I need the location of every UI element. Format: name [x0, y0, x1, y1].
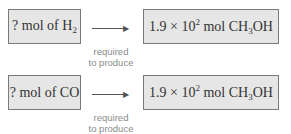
conversion-row-co: ? mol of CO ▶ required to produce 1.9 × … [0, 66, 291, 132]
methanol-text: 1.9 × 102 mol CH3OH [149, 17, 273, 36]
arrow-label: required to produce [86, 112, 136, 134]
right-arrow-icon: ▶ [92, 26, 129, 32]
h2-text: ? mol of H2 [12, 18, 77, 35]
unknown-moles-h2-box: ? mol of H2 [8, 9, 81, 44]
conversion-row-h2: ? mol of H2 ▶ required to produce 1.9 × … [0, 0, 291, 66]
methanol-text: 1.9 × 102 mol CH3OH [149, 83, 273, 102]
methanol-moles-box: 1.9 × 102 mol CH3OH [143, 9, 279, 44]
right-arrow-icon: ▶ [92, 92, 129, 98]
co-text: ? mol of CO [10, 85, 80, 101]
methanol-moles-box: 1.9 × 102 mol CH3OH [143, 75, 279, 110]
unknown-moles-co-box: ? mol of CO [8, 75, 81, 110]
arrow-label: required to produce [86, 46, 136, 68]
